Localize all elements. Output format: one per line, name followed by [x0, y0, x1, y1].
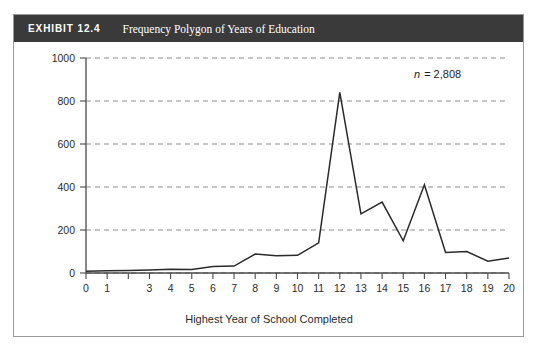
exhibit-title: Frequency Polygon of Years of Education — [123, 23, 315, 35]
x-tick-label: 11 — [313, 282, 324, 294]
x-tick-label: 10 — [292, 282, 304, 294]
x-tick-label: 7 — [231, 282, 237, 294]
y-axis: 02004006008001000 — [52, 52, 86, 279]
x-tick-label: 1 — [104, 282, 110, 294]
x-tick-label: 3 — [147, 282, 153, 294]
sample-size-annotation: n= 2,808 — [414, 68, 461, 80]
x-tick-label: 4 — [168, 282, 174, 294]
y-tick-label: 400 — [57, 181, 75, 193]
x-axis-title: Highest Year of School Completed — [185, 313, 353, 325]
x-tick-label: 17 — [440, 282, 452, 294]
x-tick-label: 12 — [334, 282, 346, 294]
exhibit-panel: EXHIBIT 12.4 Frequency Polygon of Years … — [13, 14, 524, 337]
y-tick-label: 200 — [57, 224, 75, 236]
exhibit-header-bar: EXHIBIT 12.4 Frequency Polygon of Years … — [14, 15, 523, 42]
x-tick-label: 5 — [189, 282, 195, 294]
x-tick-label: 0 — [83, 282, 89, 294]
x-tick-label: 15 — [397, 282, 409, 294]
y-tick-label: 800 — [57, 95, 75, 107]
frequency-polygon-line — [86, 92, 509, 271]
y-tick-label: 0 — [69, 267, 75, 279]
x-tick-label: 14 — [376, 282, 388, 294]
x-tick-label: 9 — [273, 282, 279, 294]
y-tick-label: 1000 — [52, 52, 76, 64]
y-tick-label: 600 — [57, 138, 75, 150]
x-tick-label: 20 — [503, 282, 515, 294]
x-tick-label: 16 — [419, 282, 431, 294]
chart-area: 02004006008001000 0134567891011121314151… — [14, 42, 523, 336]
x-tick-label: 6 — [210, 282, 216, 294]
x-tick-label: 18 — [461, 282, 473, 294]
x-tick-label: 8 — [252, 282, 258, 294]
frequency-polygon-chart: 02004006008001000 0134567891011121314151… — [14, 42, 523, 336]
exhibit-number: EXHIBIT 12.4 — [28, 23, 101, 34]
gridlines — [86, 58, 509, 273]
x-axis: 0134567891011121314151617181920 — [83, 273, 515, 294]
x-tick-label: 13 — [355, 282, 367, 294]
x-tick-label: 19 — [482, 282, 494, 294]
